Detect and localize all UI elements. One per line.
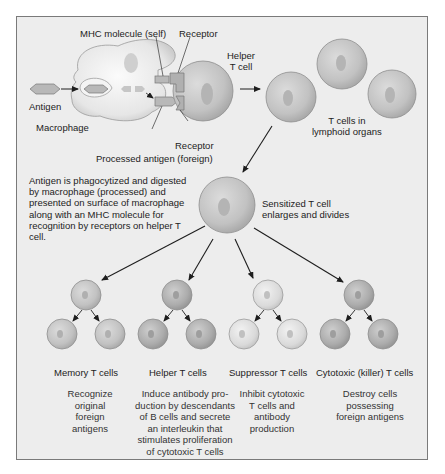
memory-t-cells-label: Memory T cells	[54, 367, 118, 378]
cytotoxic-t-cells-description: Destroy cells possessing foreign antigen…	[320, 388, 420, 423]
helper-t-cells-description: Induce antibody pro- duction by descenda…	[126, 388, 244, 457]
helper-t-cells-label: Helper T cells	[149, 367, 207, 378]
antigen-label: Antigen	[29, 101, 61, 112]
memory-t-cells-group	[47, 280, 125, 349]
helper-t-cells-group	[138, 280, 216, 349]
receptor-top	[170, 73, 184, 92]
memory-t-cells-description: Recognize original foreign antigens	[54, 388, 126, 434]
t-cells-lymphoid-label: T cells in lymphoid organs	[312, 115, 382, 137]
antigen-shape	[30, 84, 60, 94]
ingested-antigen	[84, 85, 108, 93]
receptor-bottom-label: Receptor	[175, 140, 214, 151]
suppressor-t-cells-group	[229, 280, 307, 349]
sensitized-t-cell-label: Sensitized T cell enlarges and divides	[262, 198, 349, 220]
explanation-text: Antigen is phagocytized and digested by …	[29, 175, 189, 242]
receptor-top-label: Receptor	[179, 28, 218, 39]
lymphoid-t-cells	[266, 39, 416, 122]
cytotoxic-t-cells-group	[320, 280, 398, 349]
suppressor-t-cells-label: Suppressor T cells	[229, 367, 307, 378]
processed-antigen-label: Processed antigen (foreign)	[96, 153, 213, 164]
mhc-molecule-label: MHC molecule (self)	[80, 28, 166, 39]
suppressor-t-cells-description: Inhibit cytotoxic T cells and antibody p…	[232, 388, 312, 434]
macrophage-label: Macrophage	[36, 122, 89, 133]
helper-t-cell-label: Helper T cell	[227, 50, 255, 72]
cytotoxic-t-cells-label: Cytotoxic (killer) T cells	[316, 367, 413, 378]
mhc-molecule	[155, 76, 169, 83]
